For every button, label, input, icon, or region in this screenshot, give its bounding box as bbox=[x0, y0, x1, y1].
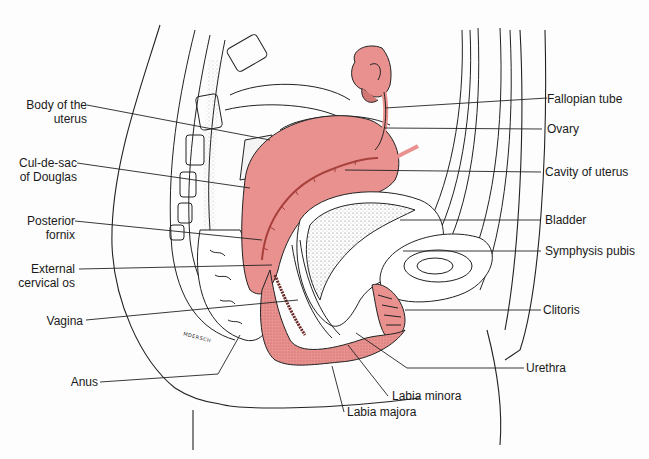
label-cavity-of-uterus: Cavity of uterus bbox=[545, 165, 628, 179]
label-posterior-fornix: Posterior fornix bbox=[27, 214, 75, 242]
label-fallopian-tube: Fallopian tube bbox=[547, 92, 622, 106]
label-body-of-uterus: Body of the uterus bbox=[26, 98, 87, 126]
label-ovary: Ovary bbox=[547, 122, 579, 136]
label-cul-de-sac: Cul-de-sac of Douglas bbox=[19, 156, 77, 184]
label-anus: Anus bbox=[71, 375, 98, 389]
pelvis-illustration bbox=[0, 0, 649, 459]
label-symphysis-pubis: Symphysis pubis bbox=[545, 244, 635, 258]
label-bladder: Bladder bbox=[545, 213, 586, 227]
label-clitoris: Clitoris bbox=[543, 303, 580, 317]
label-external-os: External cervical os bbox=[18, 262, 75, 290]
label-labia-minora: Labia minora bbox=[392, 389, 461, 403]
anatomy-diagram: MDERSCH Body of the uterus Cul-de-sac of… bbox=[0, 0, 649, 459]
label-labia-majora: Labia majora bbox=[347, 405, 416, 419]
label-urethra: Urethra bbox=[526, 361, 566, 375]
label-vagina: Vagina bbox=[47, 314, 83, 328]
